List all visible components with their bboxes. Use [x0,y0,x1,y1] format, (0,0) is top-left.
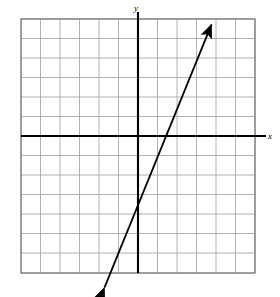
x-axis-label: x [267,131,272,141]
coordinate-plane-figure: y x [0,0,280,297]
y-axis-label: y [133,3,138,13]
graph-canvas: y x [0,0,280,297]
